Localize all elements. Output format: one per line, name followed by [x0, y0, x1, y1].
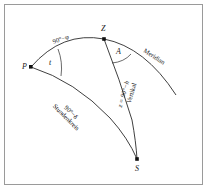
point-marker-Z [102, 37, 106, 41]
angle-label-A: A [116, 48, 121, 56]
angle-arc-t [58, 49, 62, 76]
point-marker-P [29, 65, 33, 69]
angle-label-t: t [49, 59, 51, 67]
point-label-S: S [135, 165, 139, 173]
point-label-P: P [22, 63, 27, 71]
meridian-arc [31, 38, 176, 95]
hour-circle-arc [31, 67, 137, 159]
point-label-Z: Z [101, 25, 105, 33]
point-marker-S [135, 157, 139, 161]
figure-container: P Z S t A 90°−φ 90°−δ Stundenkreis z = 9… [0, 0, 209, 191]
angle-arc-A [112, 54, 131, 63]
